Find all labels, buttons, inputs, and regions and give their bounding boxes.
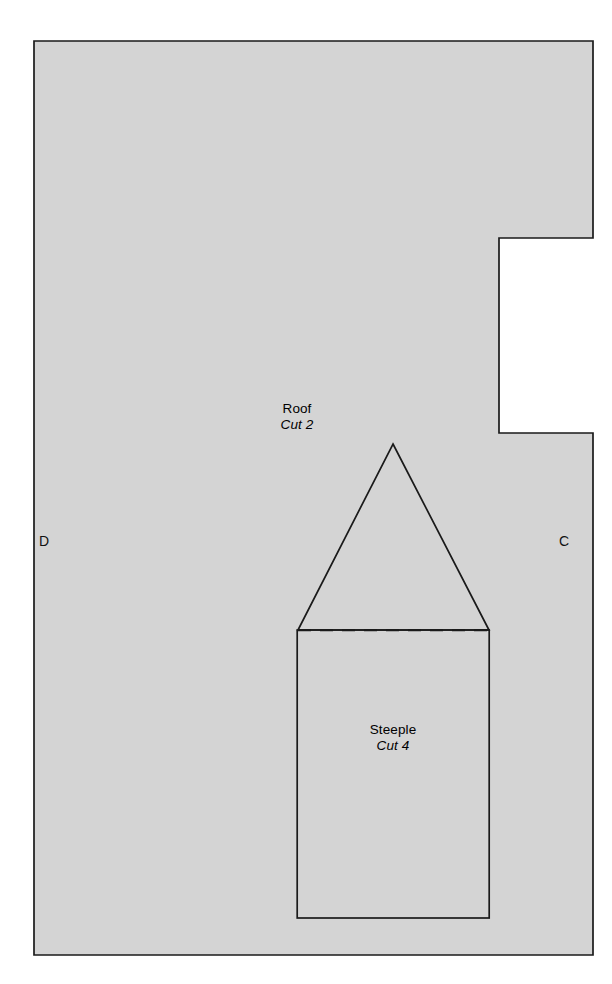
roof-pattern-piece	[34, 41, 593, 955]
pattern-sheet: Roof Cut 2 Steeple Cut 4 D C	[0, 0, 612, 984]
pattern-drawing-canvas	[0, 0, 612, 984]
